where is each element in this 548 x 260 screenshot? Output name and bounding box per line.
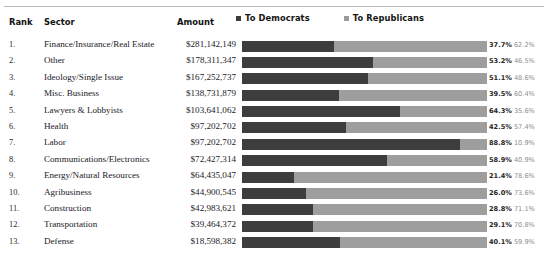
percent-democrats: 40.1% bbox=[489, 238, 512, 246]
percent-democrats: 29.1% bbox=[489, 221, 512, 229]
cell-sector: Construction bbox=[44, 203, 91, 213]
percent-republicans: 35.6% bbox=[514, 107, 535, 115]
cell-rank: 5. bbox=[9, 106, 15, 115]
bar-segment-republicans bbox=[339, 90, 487, 101]
cell-sector: Other bbox=[44, 55, 65, 65]
table-row[interactable]: 3.Ideology/Single Issue$167,252,73751.1%… bbox=[0, 71, 548, 87]
percent-republicans: 40.9% bbox=[514, 156, 535, 164]
cell-amount: $103,641,062 bbox=[150, 105, 236, 115]
percent-labels: 29.1%70.8% bbox=[489, 221, 547, 229]
percent-democrats: 53.2% bbox=[489, 57, 512, 65]
percent-democrats: 37.7% bbox=[489, 41, 512, 49]
percent-democrats: 26.0% bbox=[489, 189, 512, 197]
bar-segment-democrats bbox=[242, 221, 313, 232]
table-row[interactable]: 1.Finance/Insurance/Real Estate$281,142,… bbox=[0, 38, 548, 54]
percent-republicans: 62.2% bbox=[514, 41, 535, 49]
cell-sector: Health bbox=[44, 121, 68, 131]
cell-sector: Agribusiness bbox=[44, 187, 92, 197]
cell-rank: 11. bbox=[9, 204, 19, 213]
table-row[interactable]: 7.Labor$97,202,70288.8%10.9% bbox=[0, 136, 548, 152]
column-header-amount[interactable]: Amount bbox=[177, 17, 214, 27]
percent-labels: 64.3%35.6% bbox=[489, 107, 547, 115]
bar-segment-republicans bbox=[460, 139, 487, 150]
table-row[interactable]: 13.Defense$18,598,38240.1%59.9% bbox=[0, 235, 548, 251]
column-header-sector[interactable]: Sector bbox=[44, 17, 75, 27]
cell-amount: $44,900,545 bbox=[150, 187, 236, 197]
bar-segment-republicans bbox=[313, 221, 487, 232]
cell-rank: 13. bbox=[9, 237, 19, 246]
percent-republicans: 60.4% bbox=[514, 90, 535, 98]
bar-segment-democrats bbox=[242, 188, 306, 199]
bar-segment-democrats bbox=[242, 73, 368, 84]
cell-amount: $42,983,621 bbox=[150, 203, 236, 213]
percent-democrats: 39.5% bbox=[489, 90, 512, 98]
percent-democrats: 28.8% bbox=[489, 205, 512, 213]
top-divider bbox=[4, 6, 544, 7]
table-row[interactable]: 8.Communications/Electronics$72,427,3145… bbox=[0, 153, 548, 169]
percent-republicans: 78.6% bbox=[514, 172, 535, 180]
cell-amount: $64,435,047 bbox=[150, 170, 236, 180]
percent-democrats: 88.8% bbox=[489, 139, 512, 147]
bar-segment-republicans bbox=[368, 73, 487, 84]
cell-amount: $138,731,879 bbox=[150, 88, 236, 98]
percent-republicans: 59.9% bbox=[514, 238, 535, 246]
bar-segment-democrats bbox=[242, 122, 346, 133]
cell-rank: 10. bbox=[9, 188, 19, 197]
table-row[interactable]: 4.Misc. Business$138,731,87939.5%60.4% bbox=[0, 87, 548, 103]
bar-segment-republicans bbox=[334, 41, 487, 52]
percent-republicans: 73.6% bbox=[514, 189, 535, 197]
stacked-bar bbox=[242, 106, 487, 117]
table-row[interactable]: 12.Transportation$39,464,37229.1%70.8% bbox=[0, 218, 548, 234]
table-row[interactable]: 5.Lawyers & Lobbyists$103,641,06264.3%35… bbox=[0, 104, 548, 120]
percent-labels: 40.1%59.9% bbox=[489, 238, 547, 246]
cell-rank: 6. bbox=[9, 122, 15, 131]
stacked-bar bbox=[242, 90, 487, 101]
percent-democrats: 21.4% bbox=[489, 172, 512, 180]
table-row[interactable]: 6.Health$97,202,70242.5%57.4% bbox=[0, 120, 548, 136]
stacked-bar bbox=[242, 172, 487, 183]
cell-sector: Transportation bbox=[44, 219, 97, 229]
cell-rank: 7. bbox=[9, 138, 15, 147]
percent-labels: 88.8%10.9% bbox=[489, 139, 547, 147]
stacked-bar bbox=[242, 204, 487, 215]
percent-republicans: 71.1% bbox=[514, 205, 535, 213]
bar-segment-democrats bbox=[242, 139, 460, 150]
cell-sector: Defense bbox=[44, 236, 74, 246]
cell-rank: 12. bbox=[9, 220, 19, 229]
table-row[interactable]: 2.Other$178,311,34753.2%46.5% bbox=[0, 54, 548, 70]
percent-labels: 28.8%71.1% bbox=[489, 205, 547, 213]
cell-rank: 1. bbox=[9, 40, 15, 49]
table-row[interactable]: 11.Construction$42,983,62128.8%71.1% bbox=[0, 202, 548, 218]
bar-segment-democrats bbox=[242, 172, 294, 183]
cell-amount: $167,252,737 bbox=[150, 72, 236, 82]
table-body: 1.Finance/Insurance/Real Estate$281,142,… bbox=[0, 38, 548, 251]
table-header-row: Rank Sector Amount bbox=[0, 17, 548, 31]
cell-rank: 9. bbox=[9, 171, 15, 180]
bar-segment-republicans bbox=[313, 204, 487, 215]
percent-labels: 53.2%46.5% bbox=[489, 57, 547, 65]
stacked-bar bbox=[242, 237, 487, 248]
stacked-bar bbox=[242, 155, 487, 166]
bar-segment-republicans bbox=[373, 57, 487, 68]
bar-segment-democrats bbox=[242, 90, 339, 101]
bar-segment-republicans bbox=[400, 106, 487, 117]
cell-sector: Lawyers & Lobbyists bbox=[44, 105, 123, 115]
percent-democrats: 64.3% bbox=[489, 107, 512, 115]
percent-democrats: 42.5% bbox=[489, 123, 512, 131]
bar-segment-republicans bbox=[294, 172, 487, 183]
percent-labels: 42.5%57.4% bbox=[489, 123, 547, 131]
percent-republicans: 57.4% bbox=[514, 123, 535, 131]
column-header-rank[interactable]: Rank bbox=[9, 17, 33, 27]
bar-segment-democrats bbox=[242, 237, 340, 248]
table-row[interactable]: 9.Energy/Natural Resources$64,435,04721.… bbox=[0, 169, 548, 185]
table-row[interactable]: 10.Agribusiness$44,900,54526.0%73.6% bbox=[0, 186, 548, 202]
percent-republicans: 10.9% bbox=[514, 139, 535, 147]
cell-sector: Energy/Natural Resources bbox=[44, 170, 140, 180]
stacked-bar bbox=[242, 73, 487, 84]
bar-segment-democrats bbox=[242, 204, 313, 215]
cell-sector: Misc. Business bbox=[44, 88, 99, 98]
cell-rank: 8. bbox=[9, 155, 15, 164]
percent-labels: 26.0%73.6% bbox=[489, 189, 547, 197]
cell-amount: $97,202,702 bbox=[150, 137, 236, 147]
cell-amount: $97,202,702 bbox=[150, 121, 236, 131]
